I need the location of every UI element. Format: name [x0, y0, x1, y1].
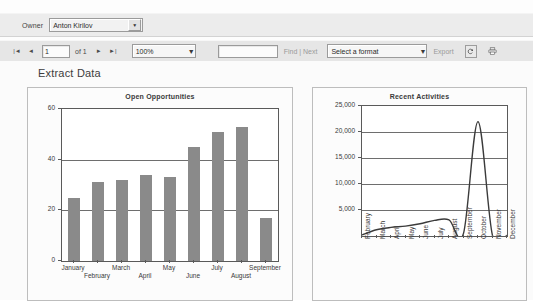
page-number-input[interactable]: 1: [42, 45, 70, 58]
page-count-label: of 1: [75, 48, 87, 55]
x-axis-tick-mark: [217, 260, 218, 263]
x-axis-tick-mark: [376, 235, 377, 238]
x-axis-tick-label: June: [170, 272, 216, 279]
y-axis-tick-label: 20: [35, 205, 55, 212]
x-axis-tick-label: June: [422, 225, 429, 239]
x-axis-tick-mark: [390, 235, 391, 238]
x-axis-tick-mark: [448, 235, 449, 238]
y-axis-tick-mark: [358, 209, 361, 210]
report-body: Extract Data Open Opportunities 0204060J…: [0, 61, 533, 300]
zoom-dropdown-value: 100%: [133, 48, 188, 55]
first-page-icon[interactable]: |◄: [12, 45, 22, 58]
x-axis-tick-mark: [419, 235, 420, 238]
x-axis-tick-label: April: [393, 226, 400, 239]
y-axis-tick-label: 15,000: [321, 153, 355, 160]
x-axis-tick-mark: [169, 260, 170, 263]
y-axis-tick-label: 40: [35, 155, 55, 162]
chart-title-recent-activities: Recent Activities: [313, 93, 526, 100]
bar: [68, 198, 80, 261]
y-axis-tick-label: 25,000: [321, 101, 355, 108]
x-axis-tick-label: January: [50, 264, 96, 271]
report-toolbar: |◄ ◄ 1 of 1 ► ►| 100% ▼ Find | Next Sele…: [0, 40, 533, 62]
x-axis-tick-label: September: [466, 207, 473, 239]
open-opportunities-panel: Open Opportunities 0204060JanuaryFebruar…: [27, 87, 293, 301]
last-page-icon[interactable]: ►|: [108, 45, 118, 58]
x-axis-tick-mark: [434, 235, 435, 238]
x-axis-tick-mark: [463, 235, 464, 238]
chevron-down-icon[interactable]: ▼: [188, 48, 195, 55]
page-title: Extract Data: [38, 67, 101, 79]
export-format-value: Select a format: [328, 48, 419, 55]
y-axis-tick-label: 0: [35, 256, 55, 263]
recent-activities-panel: Recent Activities 5,00010,00015,00020,00…: [312, 87, 527, 301]
owner-dropdown-value: Anton Kirilov: [50, 22, 128, 29]
bar: [188, 147, 200, 261]
x-axis-tick-mark: [241, 260, 242, 263]
bar: [116, 180, 128, 261]
y-axis-tick-mark: [358, 131, 361, 132]
owner-label: Owner: [22, 22, 43, 29]
y-axis-tick-mark: [358, 157, 361, 158]
y-axis-tick-label: 10,000: [321, 179, 355, 186]
x-axis-tick-label: April: [122, 272, 168, 279]
export-format-dropdown[interactable]: Select a format ▼: [327, 44, 427, 58]
x-axis-tick-mark: [361, 235, 362, 238]
y-axis-tick-label: 20,000: [321, 127, 355, 134]
x-axis-tick-label: May: [146, 264, 192, 271]
y-axis-tick-label: 5,000: [321, 205, 355, 212]
x-axis-tick-mark: [492, 235, 493, 238]
find-next-link[interactable]: Find | Next: [284, 48, 318, 55]
x-axis-tick-mark: [121, 260, 122, 263]
y-axis-tick-mark: [58, 159, 61, 160]
bar: [140, 175, 152, 261]
bar: [260, 218, 272, 261]
y-axis-tick-label: 60: [35, 104, 55, 111]
x-axis-tick-label: September: [242, 264, 288, 271]
bar: [164, 177, 176, 261]
parameter-bar: Owner Anton Kirilov ▼: [0, 13, 533, 37]
bar: [92, 182, 104, 261]
previous-page-icon[interactable]: ◄: [26, 45, 36, 58]
search-input[interactable]: [218, 45, 278, 58]
open-opportunities-plot-area: [61, 108, 279, 262]
bar: [212, 132, 224, 261]
x-axis-tick-label: February: [364, 213, 371, 239]
x-axis-tick-label: July: [194, 264, 240, 271]
owner-dropdown[interactable]: Anton Kirilov ▼: [49, 18, 143, 32]
x-axis-tick-label: March: [98, 264, 144, 271]
x-axis-tick-mark: [193, 260, 194, 263]
zoom-dropdown[interactable]: 100% ▼: [132, 44, 196, 58]
x-axis-tick-label: May: [408, 227, 415, 239]
x-axis-tick-label: December: [509, 209, 516, 239]
y-axis-tick-mark: [358, 105, 361, 106]
next-page-icon[interactable]: ►: [94, 45, 104, 58]
x-axis-tick-label: March: [379, 221, 386, 239]
x-axis-tick-mark: [405, 235, 406, 238]
x-axis-tick-mark: [477, 235, 478, 238]
x-axis-tick-mark: [506, 235, 507, 238]
chevron-down-icon[interactable]: ▼: [128, 19, 141, 31]
y-axis-tick-mark: [58, 108, 61, 109]
x-axis-tick-label: August: [218, 272, 264, 279]
x-axis-tick-mark: [73, 260, 74, 263]
chart-title-open-opportunities: Open Opportunities: [28, 93, 292, 100]
bar: [236, 127, 248, 261]
x-axis-tick-label: August: [451, 219, 458, 239]
x-axis-tick-label: October: [480, 216, 487, 239]
x-axis-tick-label: July: [437, 227, 444, 239]
y-axis-tick-mark: [58, 209, 61, 210]
refresh-icon[interactable]: [465, 45, 477, 58]
chevron-down-icon[interactable]: ▼: [419, 48, 426, 55]
x-axis-tick-mark: [265, 260, 266, 263]
x-axis-tick-label: February: [74, 272, 120, 279]
page-number-value: 1: [43, 48, 49, 55]
x-axis-tick-mark: [145, 260, 146, 263]
x-axis-tick-mark: [97, 260, 98, 263]
export-button[interactable]: Export: [433, 48, 453, 55]
x-axis-tick-label: November: [495, 209, 502, 239]
print-icon[interactable]: [488, 46, 498, 57]
y-axis-tick-mark: [358, 183, 361, 184]
y-axis-tick-mark: [58, 260, 61, 261]
